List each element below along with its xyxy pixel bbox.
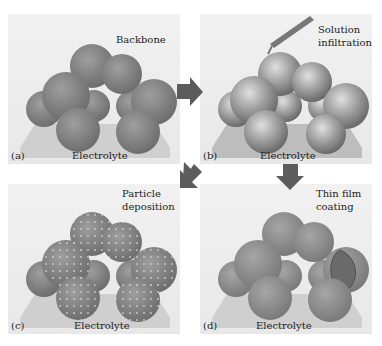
panel-title-line1: Solution (318, 24, 360, 36)
panel-title-line1: Thin film (316, 188, 361, 200)
pipette-icon (270, 16, 314, 48)
panel-title-line2: infiltration (318, 37, 372, 49)
panel-a-backbone: Backbone (a) Electrolyte (8, 14, 180, 164)
substrate-label: Electrolyte (260, 150, 316, 162)
panel-title-line1: Particle (122, 188, 161, 200)
panel-d-thin-film-coating: Thin film coating (d) Electrolyte (200, 184, 372, 334)
panel-tag: (c) (11, 320, 24, 332)
substrate-label: Electrolyte (74, 320, 130, 332)
panel-title-line2: coating (316, 201, 354, 213)
panel-title: Backbone (116, 34, 166, 46)
panel-tag: (b) (203, 150, 217, 162)
arrow-down-left-icon (180, 162, 196, 186)
panel-b-solution-infiltration: Solution infiltration (b) Electrolyte (200, 14, 372, 164)
panel-tag: (a) (11, 150, 25, 162)
panel-c-particle-deposition: Particle deposition (c) Electrolyte (8, 184, 180, 334)
panel-tag: (d) (203, 320, 217, 332)
substrate-label: Electrolyte (72, 150, 128, 162)
substrate-label: Electrolyte (256, 320, 312, 332)
panel-title-line2: deposition (122, 201, 175, 213)
